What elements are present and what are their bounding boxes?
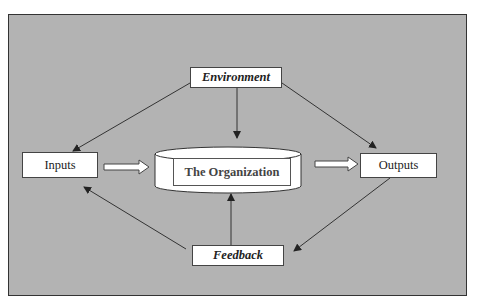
- feedback-box: Feedback: [192, 245, 284, 266]
- arrow-feedback-to-inputs: [84, 187, 186, 249]
- block-arrow-inputs-to-organization: [104, 160, 149, 174]
- block-arrow-organization-to-outputs: [315, 157, 358, 171]
- environment-box: Environment: [190, 67, 282, 88]
- inputs-box: Inputs: [22, 152, 98, 178]
- organization-label: The Organization: [173, 158, 291, 186]
- arrow-outputs-to-feedback: [294, 178, 390, 251]
- arrow-environment-to-outputs: [282, 83, 376, 148]
- arrow-environment-to-inputs: [73, 83, 190, 151]
- outputs-box: Outputs: [360, 153, 437, 178]
